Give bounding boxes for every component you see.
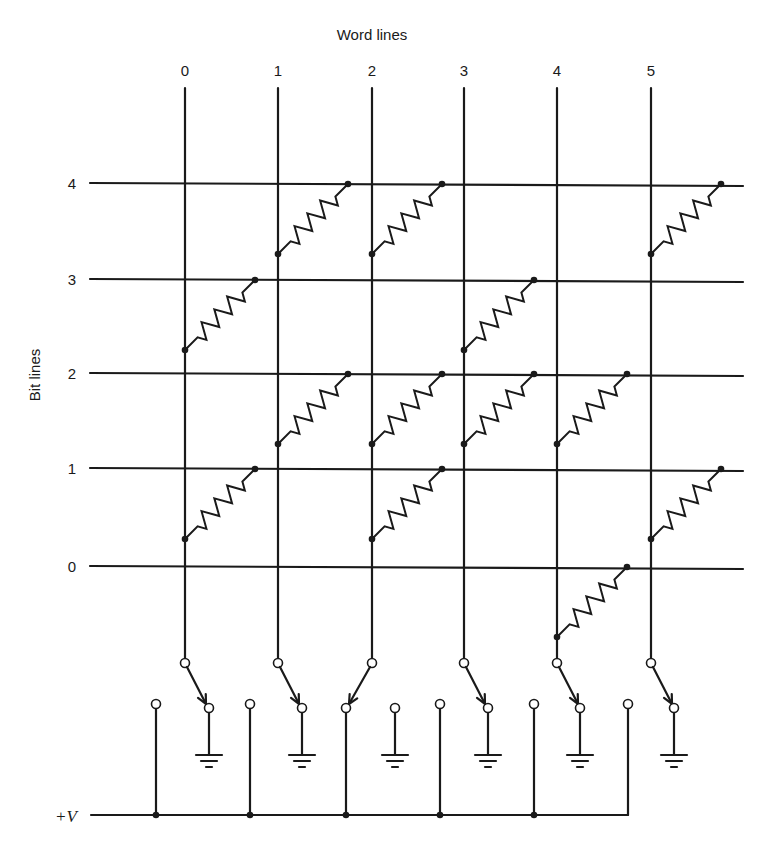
- switch-word-2: [349, 659, 377, 705]
- resistor-w5-b4: [648, 181, 725, 258]
- supply-contact-4: [530, 700, 539, 819]
- bit-line-1: [90, 468, 743, 471]
- resistor-zigzag: [372, 469, 442, 539]
- junction-dot: [437, 812, 444, 819]
- switch-pivot: [274, 659, 283, 668]
- bit-line-label-4: 4: [68, 175, 76, 192]
- supply-contact: [152, 700, 161, 709]
- junction-dot: [531, 812, 538, 819]
- junction-dot: [531, 277, 538, 284]
- resistor-w1-b2: [275, 371, 352, 448]
- supply-contact: [246, 700, 255, 709]
- supply-contact: [530, 700, 539, 709]
- junction-dot: [275, 251, 282, 258]
- ground-contact: [391, 704, 400, 713]
- resistor-zigzag: [557, 374, 627, 444]
- switch-arm: [280, 667, 299, 704]
- bit-lines-title: Bit lines: [26, 349, 43, 402]
- resistor-zigzag: [372, 184, 442, 254]
- supply-voltage-label: +V: [55, 807, 79, 826]
- rom-resistor-matrix-diagram: Word lines Bit lines +V 43210 012345: [0, 0, 766, 855]
- resistor-w0-b3: [182, 277, 259, 354]
- resistor-w2-b4: [369, 181, 446, 258]
- switch-word-5: [647, 659, 673, 705]
- switch-arm: [559, 667, 578, 704]
- junction-dot: [531, 371, 538, 378]
- junction-dot: [343, 812, 350, 819]
- bit-line-0: [90, 566, 743, 569]
- bit-line-label-1: 1: [68, 460, 76, 477]
- resistor-w2-b2: [369, 371, 446, 448]
- ground-5: [661, 704, 687, 768]
- junction-dot: [182, 347, 189, 354]
- switch-pivot: [553, 659, 562, 668]
- resistor-zigzag: [464, 374, 534, 444]
- junction-dot: [182, 536, 189, 543]
- resistor-zigzag: [185, 280, 255, 350]
- junction-dot: [439, 371, 446, 378]
- switches-group: [181, 659, 688, 768]
- switch-pivot: [368, 659, 377, 668]
- supply-contact: [342, 704, 351, 713]
- word-line-label-1: 1: [274, 62, 282, 79]
- junction-dot: [461, 441, 468, 448]
- resistor-zigzag: [651, 469, 721, 539]
- ground-1: [289, 704, 315, 768]
- supply-contact: [624, 700, 633, 709]
- junction-dot: [247, 812, 254, 819]
- junction-dot: [153, 812, 160, 819]
- word-line-label-2: 2: [368, 62, 376, 79]
- junction-dot: [252, 277, 259, 284]
- supply-contact-5: [624, 700, 633, 816]
- junction-dot: [461, 347, 468, 354]
- bit-line-label-0: 0: [68, 558, 76, 575]
- bit-line-3: [90, 279, 743, 282]
- resistor-zigzag: [185, 469, 255, 539]
- switch-arm: [466, 667, 485, 704]
- word-line-label-0: 0: [181, 62, 189, 79]
- supply-contact: [436, 700, 445, 709]
- ground-4: [567, 704, 593, 768]
- switch-word-1: [274, 659, 300, 705]
- junction-dot: [718, 466, 725, 473]
- resistor-w3-b2: [461, 371, 538, 448]
- junction-dot: [554, 441, 561, 448]
- supply-contact-2: [342, 704, 351, 819]
- switch-word-3: [460, 659, 486, 705]
- ground-contact: [298, 704, 307, 713]
- resistor-w1-b4: [275, 181, 352, 258]
- ground-contact: [576, 704, 585, 713]
- word-lines-title: Word lines: [337, 26, 408, 43]
- ground-3: [475, 704, 501, 768]
- figure-caption-clipped: [0, 843, 766, 855]
- switch-word-0: [181, 659, 207, 705]
- resistor-w0-b1: [182, 466, 259, 543]
- supply-bus-group: [91, 700, 633, 819]
- resistor-w5-b1: [648, 466, 725, 543]
- junction-dot: [648, 536, 655, 543]
- resistors-group: [182, 181, 725, 641]
- switch-pivot: [647, 659, 656, 668]
- junction-dot: [369, 441, 376, 448]
- resistor-zigzag: [464, 280, 534, 350]
- bit-line-label-3: 3: [68, 271, 76, 288]
- supply-contact-3: [436, 700, 445, 819]
- ground-2: [382, 704, 408, 768]
- ground-contact: [484, 704, 493, 713]
- word-line-label-5: 5: [647, 62, 655, 79]
- junction-dot: [439, 466, 446, 473]
- bit-line-4: [90, 183, 743, 186]
- word-line-label-4: 4: [553, 62, 561, 79]
- switch-pivot: [181, 659, 190, 668]
- switch-pivot: [460, 659, 469, 668]
- junction-dot: [345, 371, 352, 378]
- junction-dot: [648, 251, 655, 258]
- switch-arm: [187, 667, 206, 704]
- switch-arm: [653, 667, 672, 704]
- junction-dot: [439, 181, 446, 188]
- bit-line-label-2: 2: [68, 365, 76, 382]
- junction-dot: [554, 634, 561, 641]
- junction-dot: [345, 181, 352, 188]
- supply-contact-1: [246, 700, 255, 819]
- ground-0: [196, 704, 222, 768]
